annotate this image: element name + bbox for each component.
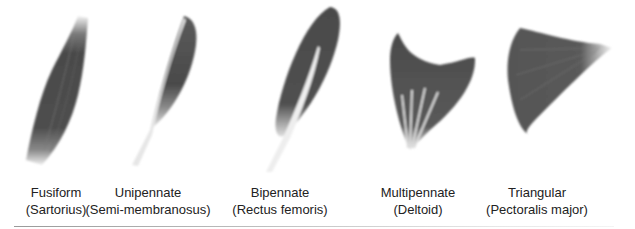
multipennate-muscle: [390, 33, 475, 150]
fusiform-muscle: [26, 16, 88, 165]
muscle-name: Multipennate: [381, 184, 455, 201]
unipennate-muscle: [132, 16, 197, 166]
label-triangular: Triangular (Pectoralis major): [486, 184, 588, 218]
muscle-name: Triangular: [486, 184, 588, 201]
muscle-example: (Rectus femoris): [232, 201, 327, 218]
muscle-example: (Deltoid): [381, 201, 455, 218]
muscle-name: Fusiform: [26, 184, 87, 201]
muscle-name: Bipennate: [232, 184, 327, 201]
muscle-example: (Sartorius): [26, 201, 87, 218]
triangular-muscle: [508, 28, 613, 134]
label-fusiform: Fusiform (Sartorius): [26, 184, 87, 218]
bottom-divider: [14, 226, 614, 227]
bipennate-muscle: [266, 7, 340, 172]
label-unipennate: Unipennate (Semi-membranosus): [86, 184, 211, 218]
muscle-example: (Semi-membranosus): [86, 201, 211, 218]
muscle-name: Unipennate: [86, 184, 211, 201]
label-multipennate: Multipennate (Deltoid): [381, 184, 455, 218]
label-bipennate: Bipennate (Rectus femoris): [232, 184, 327, 218]
muscle-example: (Pectoralis major): [486, 201, 588, 218]
